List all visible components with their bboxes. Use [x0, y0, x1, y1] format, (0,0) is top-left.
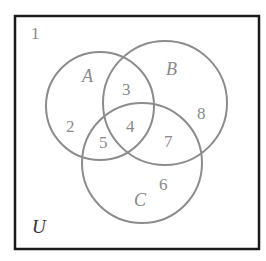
region-outside: 1 [31, 24, 40, 43]
region-a-b: 3 [122, 80, 131, 99]
universe-box [15, 16, 259, 249]
region-only-c: 6 [159, 175, 168, 194]
set-b-label: B [166, 59, 177, 79]
region-a-b-c: 4 [126, 117, 135, 136]
venn-diagram: 1 A B C 3 2 4 5 7 8 6 U [0, 0, 266, 261]
set-a-label: A [81, 66, 94, 86]
region-only-b: 8 [197, 104, 206, 123]
region-b-c: 7 [164, 132, 173, 151]
universe-label: U [32, 216, 47, 237]
region-a-c: 5 [99, 133, 108, 152]
set-c-label: C [134, 190, 147, 210]
region-only-a: 2 [66, 117, 75, 136]
